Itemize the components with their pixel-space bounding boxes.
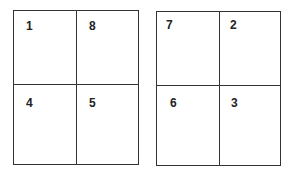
right-sheet-vertical-divider <box>219 12 220 165</box>
page-number-top-right: 2 <box>230 19 237 31</box>
page-number-top-right: 8 <box>89 20 96 32</box>
page-number-bottom-left: 6 <box>170 97 177 109</box>
page-number-top-left: 7 <box>166 19 173 31</box>
page-number-bottom-left: 4 <box>26 97 33 109</box>
right-sheet-horizontal-divider <box>157 85 280 86</box>
page-number-bottom-right: 5 <box>89 97 96 109</box>
left-sheet-vertical-divider <box>76 11 77 164</box>
page-number-top-left: 1 <box>26 20 33 32</box>
left-sheet-horizontal-divider <box>14 84 138 85</box>
left-sheet: 1 8 4 5 <box>13 10 139 165</box>
right-sheet: 7 2 6 3 <box>156 11 281 166</box>
page-number-bottom-right: 3 <box>231 97 238 109</box>
